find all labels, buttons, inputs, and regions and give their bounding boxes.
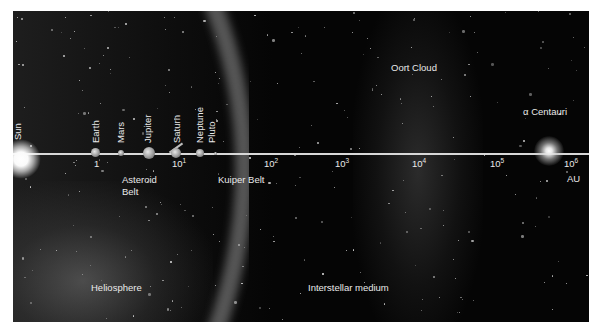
star-dot bbox=[184, 210, 186, 212]
star-dot bbox=[219, 78, 221, 80]
star-dot bbox=[515, 194, 516, 195]
star-dot bbox=[161, 204, 162, 205]
star-dot bbox=[165, 29, 166, 30]
star-dot bbox=[548, 216, 551, 219]
star-dot bbox=[88, 112, 90, 114]
star-dot bbox=[324, 27, 325, 28]
star-dot bbox=[586, 275, 588, 277]
alpha-centauri-label: α Centauri bbox=[523, 107, 567, 117]
star-dot bbox=[24, 107, 25, 108]
star-dot bbox=[321, 221, 323, 223]
earth-icon bbox=[91, 148, 100, 157]
star-dot bbox=[277, 83, 278, 84]
star-dot bbox=[188, 286, 190, 288]
star-dot bbox=[76, 160, 77, 161]
star-dot bbox=[257, 119, 258, 120]
star-dot bbox=[522, 222, 524, 224]
star-dot bbox=[21, 18, 23, 20]
star-dot bbox=[421, 310, 422, 311]
star-dot bbox=[15, 160, 17, 162]
star-dot bbox=[83, 112, 86, 115]
star-dot bbox=[146, 169, 147, 170]
star-dot bbox=[90, 265, 91, 266]
star-dot bbox=[84, 48, 85, 49]
star-dot bbox=[70, 38, 71, 39]
star-dot bbox=[157, 108, 159, 110]
star-dot bbox=[165, 85, 166, 86]
star-dot bbox=[462, 30, 465, 33]
star-dot bbox=[540, 47, 542, 49]
star-dot bbox=[571, 60, 572, 61]
star-dot bbox=[254, 15, 256, 17]
star-dot bbox=[295, 217, 297, 219]
star-dot bbox=[73, 225, 74, 226]
star-dot bbox=[353, 12, 355, 14]
neptune-icon bbox=[196, 149, 204, 157]
star-dot bbox=[215, 72, 217, 74]
star-dot bbox=[203, 20, 206, 23]
star-dot bbox=[61, 32, 62, 33]
star-dot bbox=[65, 17, 66, 18]
star-dot bbox=[576, 70, 577, 71]
star-dot bbox=[32, 270, 33, 271]
star-dot bbox=[420, 228, 422, 230]
star-dot bbox=[103, 55, 105, 57]
mars-label: Mars bbox=[116, 122, 126, 143]
star-dot bbox=[299, 177, 301, 179]
star-dot bbox=[558, 261, 559, 262]
asteroid-belt-label-line1: Asteroid bbox=[122, 175, 157, 185]
star-dot bbox=[433, 106, 434, 107]
star-dot bbox=[238, 244, 240, 246]
star-dot bbox=[122, 109, 125, 112]
star-dot bbox=[133, 118, 135, 120]
star-dot bbox=[536, 197, 538, 199]
star-dot bbox=[82, 90, 83, 91]
star-dot bbox=[376, 85, 378, 87]
sun-icon bbox=[13, 139, 41, 179]
star-dot bbox=[16, 41, 18, 43]
star-dot bbox=[353, 249, 355, 251]
star-dot bbox=[216, 36, 217, 37]
star-dot bbox=[459, 312, 460, 313]
star-dot bbox=[552, 309, 554, 311]
star-dot bbox=[89, 67, 91, 69]
star-dot bbox=[336, 103, 338, 105]
star-dot bbox=[521, 235, 524, 238]
star-dot bbox=[30, 145, 32, 147]
star-dot bbox=[148, 293, 151, 296]
star-dot bbox=[182, 31, 184, 33]
star-dot bbox=[101, 170, 104, 173]
star-dot bbox=[384, 303, 386, 305]
heliosphere-glow bbox=[13, 181, 213, 322]
star-dot bbox=[464, 74, 466, 76]
alpha-centauri-star-icon bbox=[534, 136, 564, 166]
star-dot bbox=[351, 217, 352, 218]
star-dot bbox=[311, 125, 312, 126]
star-dot bbox=[162, 280, 164, 282]
star-dot bbox=[40, 249, 41, 250]
star-dot bbox=[413, 19, 415, 21]
star-dot bbox=[170, 261, 172, 263]
star-dot bbox=[153, 170, 155, 172]
heliosphere-wash bbox=[13, 11, 273, 322]
star-dot bbox=[180, 204, 181, 205]
star-dot bbox=[322, 273, 324, 275]
star-dot bbox=[429, 208, 431, 210]
star-dot bbox=[78, 113, 79, 114]
star-dot bbox=[449, 32, 450, 33]
star-dot bbox=[334, 187, 335, 188]
star-dot bbox=[244, 247, 245, 248]
pluto-label: Pluto bbox=[207, 121, 217, 143]
star-dot bbox=[218, 83, 220, 85]
star-dot bbox=[150, 286, 151, 287]
star-dot bbox=[405, 212, 406, 213]
star-dot bbox=[298, 27, 299, 28]
star-dot bbox=[433, 276, 436, 279]
star-dot bbox=[106, 318, 107, 319]
star-dot bbox=[523, 140, 525, 142]
star-dot bbox=[22, 257, 25, 260]
star-dot bbox=[347, 117, 349, 119]
star-dot bbox=[110, 73, 111, 74]
star-dot bbox=[76, 251, 77, 252]
star-dot bbox=[441, 79, 443, 81]
